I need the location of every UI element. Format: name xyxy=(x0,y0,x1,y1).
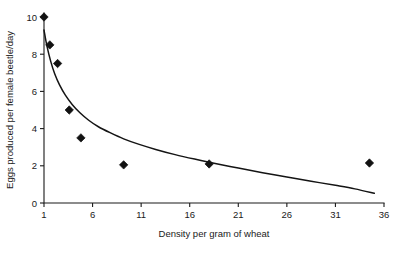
chart-figure: 161116212631360246810 Density per gram o… xyxy=(0,0,407,254)
x-axis-tick-label: 16 xyxy=(184,209,195,220)
axis-ticks-group: 161116212631360246810 xyxy=(26,12,389,221)
y-axis-tick-label: 10 xyxy=(26,12,37,23)
y-axis-tick-label: 8 xyxy=(32,49,37,60)
y-axis-title: Eggs produced per female beetle/day xyxy=(4,31,15,189)
x-axis-tick-label: 31 xyxy=(330,209,341,220)
x-axis-tick-label: 21 xyxy=(233,209,244,220)
x-axis-tick-label: 1 xyxy=(41,209,46,220)
y-axis-tick-label: 4 xyxy=(32,123,37,134)
x-axis-tick-label: 26 xyxy=(282,209,293,220)
x-axis-tick-label: 6 xyxy=(90,209,95,220)
scatter-plot-canvas: 161116212631360246810 Density per gram o… xyxy=(0,0,407,254)
x-axis-title: Density per gram of wheat xyxy=(159,228,270,239)
data-point-marker xyxy=(53,59,61,67)
data-point-marker xyxy=(65,106,73,114)
data-point-marker xyxy=(40,13,48,21)
data-point-marker xyxy=(77,134,85,142)
x-axis-tick-label: 36 xyxy=(379,209,390,220)
plot-axes xyxy=(44,13,384,203)
y-axis-tick-label: 2 xyxy=(32,160,37,171)
data-markers-group xyxy=(40,13,374,169)
fitted-curve xyxy=(44,30,374,193)
x-axis-tick-label: 11 xyxy=(136,209,146,220)
data-point-marker xyxy=(119,161,127,169)
data-point-marker xyxy=(365,159,373,167)
y-axis-tick-label: 6 xyxy=(32,86,37,97)
y-axis-tick-label: 0 xyxy=(32,198,37,209)
